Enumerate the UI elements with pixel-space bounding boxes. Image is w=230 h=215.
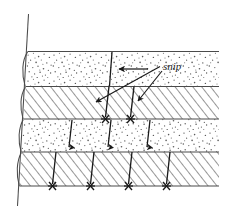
- lower-stipple-course: [22, 119, 220, 152]
- shingle-snip-diagram: snip: [0, 0, 230, 215]
- lower-hatch-course: [20, 152, 220, 186]
- upper-hatch-course: [24, 87, 220, 120]
- course-bands: [20, 52, 220, 187]
- figure-canvas: snip: [0, 0, 230, 215]
- snip-label: snip: [163, 60, 182, 72]
